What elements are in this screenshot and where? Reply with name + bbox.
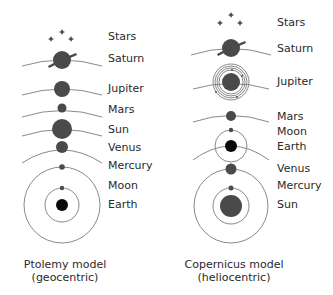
heliocentric-model [191,12,271,243]
label-sun: Sun [277,199,298,211]
earth-icon [225,140,237,152]
mars-icon [58,104,67,113]
label-earth: Earth [277,141,307,153]
mercury-icon [59,164,65,170]
geocentric-model [22,29,102,243]
label-sun: Sun [108,124,129,136]
moon-icon [60,186,64,190]
sun-icon [220,195,242,217]
label-mercury: Mercury [277,180,322,192]
earth-icon [56,199,68,211]
label-stars: Stars [277,17,305,29]
heliocentric-caption: Copernicus model (heliocentric) [182,258,286,284]
label-mercury: Mercury [108,160,153,172]
label-moon: Moon [277,126,307,138]
label-jupiter: Jupiter [277,76,313,88]
stars-icon [48,29,74,42]
label-stars: Stars [108,31,136,43]
mercury-icon [229,186,234,191]
caption-subtitle: (geocentric) [22,271,108,284]
jupiter-icon [213,64,249,100]
saturn-icon [217,39,246,57]
label-earth: Earth [108,199,138,211]
label-mars: Mars [108,104,135,116]
label-saturn: Saturn [108,53,144,65]
label-venus: Venus [277,163,310,175]
label-venus: Venus [108,142,141,154]
label-jupiter: Jupiter [108,83,144,95]
label-moon: Moon [108,180,138,192]
caption-title: Copernicus model [182,258,286,271]
caption-title: Ptolemy model [22,258,108,271]
jupiter-icon [54,81,70,97]
geocentric-caption: Ptolemy model (geocentric) [22,258,108,284]
venus-icon [56,141,68,153]
caption-subtitle: (heliocentric) [182,271,286,284]
mars-icon [226,111,236,121]
stars-icon [217,12,243,26]
label-saturn: Saturn [277,43,313,55]
label-mars: Mars [277,111,304,123]
moon-icon [229,128,233,132]
sun-icon [52,119,72,139]
venus-icon [226,164,237,175]
